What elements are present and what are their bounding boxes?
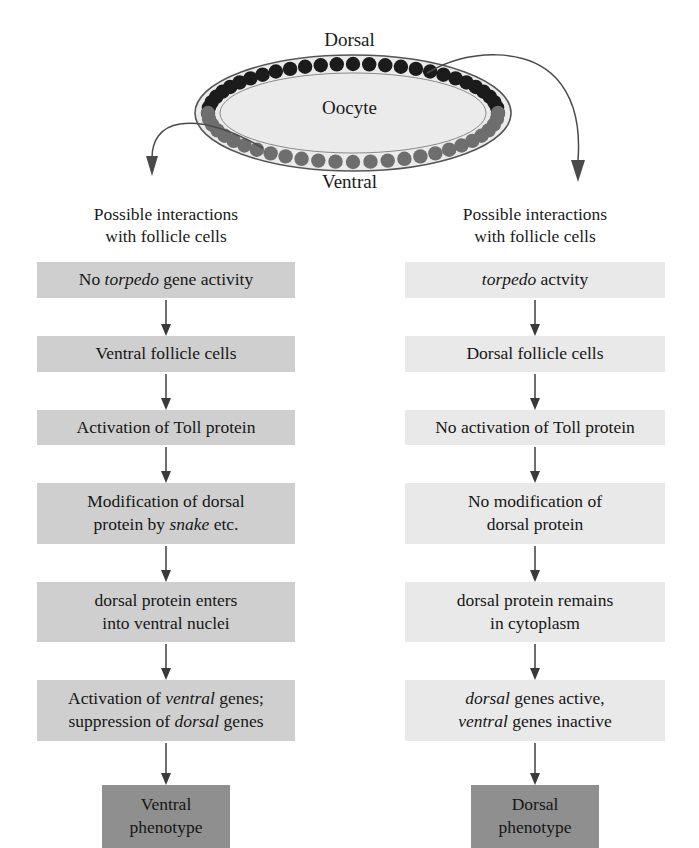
flow-arrow-icon (158, 298, 174, 336)
ventral-pathway-step-connector (37, 544, 295, 582)
dorsal-follicle-cell (436, 67, 450, 81)
dorsal-follicle-cell (330, 57, 344, 71)
flow-arrow-icon (527, 445, 543, 483)
ventral-follicle-cell (413, 149, 427, 163)
flow-arrow-icon (527, 642, 543, 680)
dorsal-pathway-step-connector (405, 741, 665, 785)
ventral-pathway-step-box: Activation of Toll protein (37, 410, 295, 446)
dorsal-pathway-step-box: Dorsal follicle cells (405, 336, 665, 372)
left-pathway-column: No torpedo gene activityVentral follicle… (37, 262, 295, 848)
dorsal-pathway-step-connector (405, 372, 665, 410)
dorsal-pathway-step-box: torpedo actvity (405, 262, 665, 298)
ventral-pathway-step-box: dorsal protein entersinto ventral nuclei (37, 582, 295, 643)
dorsal-follicle-cell (378, 58, 392, 72)
flow-arrow-icon (527, 298, 543, 336)
dorsal-pathway-step-box: No activation of Toll protein (405, 410, 665, 446)
flow-arrow-icon (527, 372, 543, 410)
ventral-follicle-cell (381, 153, 395, 167)
flow-arrow-icon (527, 544, 543, 582)
dorsal-follicle-cell (298, 60, 312, 74)
dorsal-follicle-cell (243, 71, 257, 85)
ventral-pathway-phenotype-box: Ventralphenotype (102, 785, 230, 848)
dorsal-follicle-cell (409, 62, 423, 76)
ventral-follicle-cell (428, 146, 442, 160)
dorsal-pathway-step-box: No modification ofdorsal protein (405, 483, 665, 544)
flow-arrow-icon (158, 445, 174, 483)
dorsal-follicle-cell (269, 64, 283, 78)
right-pathway-column: torpedo actvityDorsal follicle cellsNo a… (405, 262, 665, 848)
ventral-label: Ventral (0, 172, 699, 191)
ventral-follicle-cell (311, 153, 325, 167)
ventral-follicle-cell (346, 155, 360, 169)
ventral-pathway-step-connector (37, 372, 295, 410)
dorsal-pathway-phenotype-box: Dorsalphenotype (471, 785, 599, 848)
dorsal-follicle-cell (255, 67, 269, 81)
ventral-follicle-cell (278, 149, 292, 163)
dorsal-label: Dorsal (0, 30, 699, 49)
ventral-follicle-cell (454, 138, 468, 152)
flow-arrow-icon (158, 372, 174, 410)
ventral-follicle-cell (294, 152, 308, 166)
ventral-pathway-step-box: Ventral follicle cells (37, 336, 295, 372)
oocyte-label: Oocyte (0, 98, 699, 117)
dorsal-follicle-cell (283, 62, 297, 76)
dorsal-pathway-step-connector (405, 298, 665, 336)
flow-arrow-icon (158, 741, 174, 785)
flow-arrow-icon (158, 544, 174, 582)
dorsal-pathway-step-box: dorsal genes active,ventral genes inacti… (405, 680, 665, 741)
flow-arrow-icon (527, 741, 543, 785)
flow-arrow-icon (158, 642, 174, 680)
ventral-pathway-step-box: No torpedo gene activity (37, 262, 295, 298)
ventral-pathway-step-box: Modification of dorsalprotein by snake e… (37, 483, 295, 544)
ventral-pathway-step-connector (37, 741, 295, 785)
dorsal-follicle-cell (394, 60, 408, 74)
ventral-follicle-cell (328, 154, 342, 168)
ventral-follicle-cell (263, 146, 277, 160)
dorsal-pathway-step-connector (405, 544, 665, 582)
ventral-pathway-step-box: Activation of ventral genes;suppression … (37, 680, 295, 741)
dorsal-follicle-cell (346, 57, 360, 71)
dorsal-pathway-step-connector (405, 642, 665, 680)
ventral-pathway-step-connector (37, 642, 295, 680)
oocyte-diagram: Dorsal Oocyte Ventral (0, 0, 699, 200)
ventral-follicle-cell (363, 154, 377, 168)
ventral-follicle-cell (397, 152, 411, 166)
dorsal-pathway-step-connector (405, 445, 665, 483)
dorsal-follicle-cell (362, 57, 376, 71)
dorsal-pathway-step-box: dorsal protein remainsin cytoplasm (405, 582, 665, 643)
ventral-pathway-step-connector (37, 298, 295, 336)
right-column-heading: Possible interactions with follicle cell… (405, 203, 665, 248)
left-column-heading: Possible interactions with follicle cell… (37, 203, 295, 248)
ventral-follicle-cell (442, 142, 456, 156)
dorsal-follicle-cell (314, 58, 328, 72)
ventral-pathway-step-connector (37, 445, 295, 483)
